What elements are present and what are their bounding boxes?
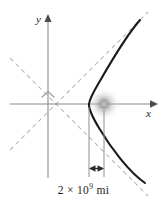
distance-unit: mi [93,184,109,196]
x-axis-label: x [146,108,151,119]
hyperbola-orbit-figure: y x 2 × 109 mi [0,0,167,209]
figure-canvas [0,0,167,209]
distance-mantissa: 2 × 10 [58,184,89,196]
asymptote-positive-slope-line [10,12,148,150]
dimension-arrowhead-right [98,165,105,172]
dimension-arrowhead-left [89,165,96,172]
sun-core [99,99,108,108]
y-axis-label: y [36,14,41,25]
x-axis [10,100,158,108]
y-axis [44,14,51,178]
distance-annotation-label: 2 × 109 mi [0,184,167,196]
y-axis-arrowhead [44,14,51,22]
dimension-arrow [89,165,104,172]
asymptote-negative-slope-line [10,58,148,196]
x-axis-arrowhead [150,100,158,108]
